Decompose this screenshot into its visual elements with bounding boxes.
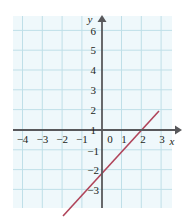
y-tick-label: 3 (91, 84, 97, 96)
y-axis-name-label: y (87, 13, 93, 25)
x-tick-label: −2 (56, 133, 68, 145)
x-tick-label: 1 (121, 133, 127, 145)
y-tick-label: 5 (91, 44, 97, 56)
x-tick-label: 3 (159, 133, 165, 145)
x-axis-arrow-icon (175, 126, 182, 135)
x-tick-label: −1 (76, 133, 88, 145)
y-tick-label: −2 (87, 164, 99, 176)
coordinate-graph-figure: y x −4 −3 −2 −1 0 1 2 3 6 5 4 3 2 1 −1 −… (0, 0, 185, 222)
y-tick-label: −3 (87, 184, 99, 196)
y-tick-label: 2 (91, 104, 97, 116)
y-tick-label: 1 (91, 124, 97, 136)
x-tick-label: −4 (17, 133, 29, 145)
x-axis-name-label: x (169, 135, 175, 147)
y-tick-label: −1 (87, 145, 99, 157)
coordinate-plane-svg: y x −4 −3 −2 −1 0 1 2 3 6 5 4 3 2 1 −1 −… (0, 0, 185, 222)
y-tick-label: 4 (91, 64, 97, 76)
x-tick-label-origin: 0 (107, 133, 113, 145)
y-tick-label: 6 (91, 25, 97, 37)
x-tick-label: 2 (140, 133, 146, 145)
x-tick-label: −3 (36, 133, 48, 145)
